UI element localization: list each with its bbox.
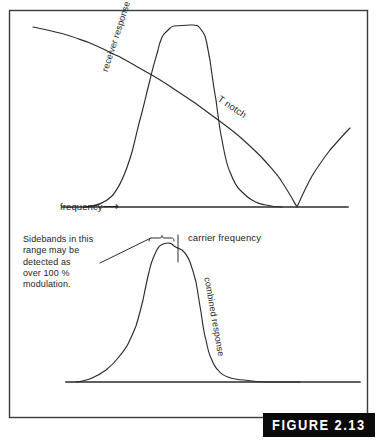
figure-border: [10, 11, 368, 418]
frequency-arrow-icon: ⟶: [103, 200, 118, 212]
carrier-frequency-label: carrier frequency: [188, 232, 261, 243]
t-notch-curve: [33, 27, 350, 207]
frequency-axis-label: frequency⟶: [60, 200, 118, 213]
sidebands-leader-line: [100, 238, 151, 263]
frequency-axis-label-text: frequency: [60, 201, 103, 212]
figure-number-text: FIGURE 2.13: [272, 417, 366, 433]
figure-drawing: [0, 0, 379, 443]
sidebands-note-label: Sidebands in this range may be detected …: [23, 234, 93, 290]
figure-2-13: frequency⟶ receiver response T notch Sid…: [0, 0, 379, 443]
combined-response-curve: [76, 243, 300, 382]
figure-number-badge: FIGURE 2.13: [263, 413, 375, 437]
upper-chart: [33, 25, 350, 207]
sideband-range-brace: [149, 236, 174, 242]
